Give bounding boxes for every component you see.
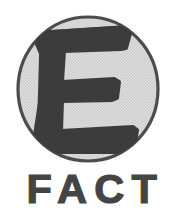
letter-e-stem	[47, 40, 50, 144]
fact-emblem	[0, 0, 183, 168]
emblem-svg	[0, 0, 183, 168]
fact-wordmark: FACT	[0, 167, 183, 211]
fact-logo: FACT	[0, 0, 183, 211]
letter-e-middle-arm	[55, 89, 112, 90]
wordmark-text: FACT	[19, 169, 164, 209]
letter-e-bottom-arm	[55, 138, 128, 140]
